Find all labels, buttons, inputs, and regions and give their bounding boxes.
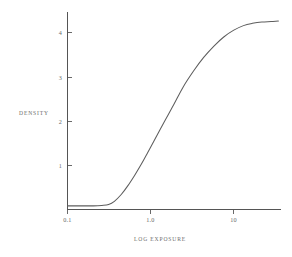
- density-curve: [68, 21, 279, 206]
- chart-svg: 4 3 2 1 0.1 1.0 10 DENSITY LOG EXPOSURE: [0, 0, 292, 257]
- characteristic-curve-figure: 4 3 2 1 0.1 1.0 10 DENSITY LOG EXPOSURE: [0, 0, 292, 257]
- x-tick-label-0p1: 0.1: [63, 216, 71, 223]
- y-tick-label-2: 2: [59, 118, 62, 125]
- y-axis-ticks: [68, 33, 72, 166]
- x-tick-label-10: 10: [230, 216, 237, 223]
- y-axis-title: DENSITY: [19, 110, 49, 116]
- x-axis-title: LOG EXPOSURE: [134, 236, 186, 242]
- y-tick-label-1: 1: [59, 162, 62, 169]
- y-tick-label-4: 4: [59, 29, 62, 36]
- y-tick-label-3: 3: [59, 74, 62, 81]
- x-axis-ticks: [68, 210, 234, 214]
- x-tick-label-1p0: 1.0: [146, 216, 154, 223]
